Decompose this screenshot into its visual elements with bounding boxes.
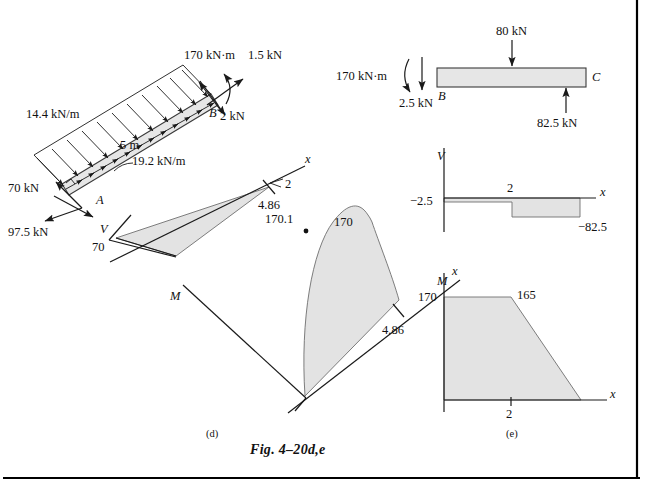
figure-canvas: 14.4 kN/m 19.2 kN/m 5 m A B 170 kN·m 1.5…	[0, 0, 655, 496]
shear-axis-x-label-e: x	[599, 185, 606, 199]
shear-axis-v-label-e: V	[437, 149, 446, 163]
shear-axis-x-label-d: x	[304, 152, 311, 166]
shear-value-end-e: −82.5	[578, 220, 607, 234]
moment-tick-value-e: 2	[506, 407, 512, 421]
moment-x-end-value-d: 4.86	[382, 323, 404, 337]
shear-tick-value-d: 2	[285, 177, 291, 191]
panel-e-shear-diagram: V x −2.5 2 −82.5	[410, 148, 607, 234]
shear-start-value-d: 70	[92, 240, 105, 254]
label-point-c-e: C	[592, 70, 601, 84]
figure-page: 14.4 kN/m 19.2 kN/m 5 m A B 170 kN·m 1.5…	[0, 0, 655, 496]
panel-e-horizontal-beam: 80 kN 170 kN·m 2.5 kN 82.5 kN B C	[336, 24, 601, 130]
figure-caption: Fig. 4–20d,e	[249, 442, 326, 457]
moment-value-break-e: 165	[517, 288, 536, 302]
label-reaction-a-normal: 70 kN	[8, 181, 39, 195]
panel-e-moment-diagram: M x 170 165 2	[418, 273, 616, 421]
label-point-a: A	[95, 193, 104, 207]
label-reaction-a-axial: 97.5 kN	[8, 225, 48, 239]
moment-end-value-d: 170	[334, 215, 353, 229]
beam-bc-body	[437, 68, 586, 87]
moment-axis-m-label-e: M	[436, 274, 448, 288]
shear-value-start-e: −2.5	[410, 194, 433, 208]
label-point-b: B	[209, 106, 217, 120]
panel-d-id: (d)	[206, 428, 219, 440]
label-normal-at-b: 2 kN	[220, 109, 245, 123]
shear-axis-v-label-d: V	[100, 222, 109, 236]
shear-tick-value-e: 2	[507, 181, 513, 195]
panel-d-moment-diagram: M x 170.1 170 4.86	[169, 206, 460, 413]
label-point-load-mid-e: 80 kN	[496, 24, 527, 38]
label-axial-at-b: 1.5 kN	[248, 48, 282, 62]
label-reaction-c-e: 82.5 kN	[537, 116, 577, 130]
distributed-axial-load	[66, 103, 214, 189]
panel-d-inclined-beam: 14.4 kN/m 19.2 kN/m 5 m A B 170 kN·m 1.5…	[8, 48, 282, 239]
label-point-b-e: B	[438, 89, 446, 103]
label-point-load-b-e: 2.5 kN	[399, 96, 433, 110]
label-beam-length: 5 m	[120, 138, 139, 152]
panel-e-id: (e)	[506, 428, 518, 440]
inclined-beam-body	[62, 94, 218, 195]
label-distributed-normal-load: 14.4 kN/m	[26, 107, 80, 121]
moment-axis-x-label-d: x	[451, 264, 458, 278]
arc-moment-170	[405, 59, 410, 92]
panel-d-shear-diagram: V x 70 2 4.86	[92, 152, 311, 262]
label-moment-at-b: 170 kN·m	[184, 48, 235, 62]
moment-peak-marker-d	[304, 229, 309, 234]
shear-end-value-d: 4.86	[258, 198, 280, 212]
moment-axis-x-label-e: x	[609, 387, 616, 401]
moment-peak-value-d: 170.1	[265, 212, 293, 226]
label-moment-at-b-e: 170 kN·m	[336, 69, 387, 83]
moment-value-start-e: 170	[418, 290, 437, 304]
label-distributed-axial-load: 19.2 kN/m	[132, 154, 186, 168]
moment-axis-m-label-d: M	[169, 289, 181, 303]
